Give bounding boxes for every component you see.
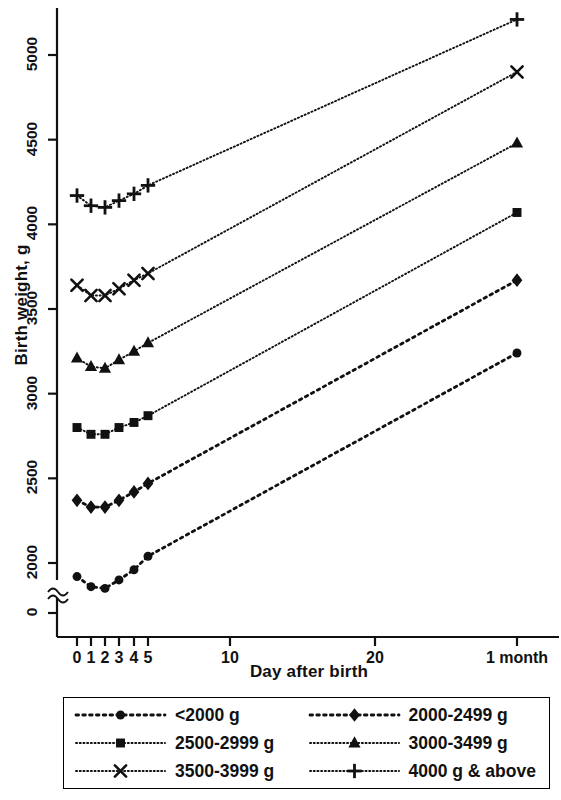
plot-area: Birth weight, g Day after birth 02000250…: [0, 0, 561, 690]
legend-label: 2500-2999 g: [175, 733, 274, 754]
data-point-circle: [130, 565, 139, 574]
data-point-x: [142, 268, 153, 279]
data-point-diamond: [129, 485, 140, 499]
data-point-plus: [70, 188, 84, 202]
data-point-plus: [112, 193, 126, 207]
y-axis-tick-label: 3500: [23, 273, 41, 343]
data-point-triangle: [85, 360, 97, 371]
x-axis-tick-label: 5: [144, 649, 153, 667]
data-point-circle: [73, 572, 82, 581]
data-point-circle: [513, 349, 522, 358]
data-point-circle: [116, 711, 125, 720]
axis-break-symbol: [48, 589, 68, 603]
series-line: [77, 143, 517, 368]
legend-label: 3500-3999 g: [175, 761, 274, 782]
data-point-x: [113, 283, 124, 294]
data-point-plus: [98, 200, 112, 214]
series-line: [77, 72, 517, 296]
data-point-square: [144, 411, 153, 420]
x-axis-tick-label: 1 month: [486, 649, 548, 667]
data-point-diamond: [349, 708, 360, 722]
data-point-x: [128, 275, 139, 286]
legend-label: 3000-3499 g: [409, 733, 508, 754]
data-point-diamond: [114, 493, 125, 507]
series-diamond: [72, 273, 523, 514]
data-point-square: [513, 208, 522, 217]
data-point-diamond: [86, 500, 97, 514]
data-point-triangle: [128, 345, 140, 356]
legend-grid: <2000 g2000-2499 g2500-2999 g3000-3499 g…: [64, 698, 549, 788]
series-plus: [70, 12, 524, 214]
legend-sample-triangle-icon: [308, 732, 401, 754]
chart-canvas: [0, 0, 561, 690]
legend-label: <2000 g: [175, 705, 240, 726]
legend-item-x[interactable]: 3500-3999 g: [74, 760, 308, 782]
legend-sample-x-icon: [74, 760, 167, 782]
data-point-circle: [115, 575, 124, 584]
legend-sample-diamond-icon: [308, 704, 401, 726]
data-point-square: [87, 430, 96, 439]
data-point-square: [116, 739, 125, 748]
legend-item-triangle[interactable]: 3000-3499 g: [308, 732, 542, 754]
data-point-plus: [127, 187, 141, 201]
data-point-circle: [144, 552, 153, 561]
x-axis-tick-label: 0: [73, 649, 82, 667]
y-axis-tick-label: 4500: [23, 104, 41, 174]
x-axis-tick-label: 1: [87, 649, 96, 667]
data-point-square: [73, 423, 82, 432]
legend-sample-plus-icon: [308, 760, 401, 782]
data-point-diamond: [100, 500, 111, 514]
series-circle: [73, 349, 522, 593]
data-point-square: [115, 423, 124, 432]
y-axis-tick-label: 4000: [23, 188, 41, 258]
series-square: [73, 208, 522, 439]
data-point-circle: [101, 584, 110, 593]
data-point-square: [101, 430, 110, 439]
legend-item-plus[interactable]: 4000 g & above: [308, 760, 542, 782]
data-point-diamond: [512, 273, 523, 287]
data-point-triangle: [71, 351, 83, 362]
legend-item-diamond[interactable]: 2000-2499 g: [308, 704, 542, 726]
x-axis-tick-label: 3: [115, 649, 124, 667]
data-point-triangle: [113, 353, 125, 364]
legend-sample-circle-icon: [74, 704, 167, 726]
legend-item-square[interactable]: 2500-2999 g: [74, 732, 308, 754]
legend-item-circle[interactable]: <2000 g: [74, 704, 308, 726]
y-axis-tick-label: 2000: [23, 527, 41, 597]
data-point-diamond: [72, 493, 83, 507]
data-point-triangle: [348, 736, 360, 747]
series-line: [77, 280, 517, 507]
series-line: [77, 353, 517, 588]
data-point-x: [71, 280, 82, 291]
x-axis-tick-label: 2: [101, 649, 110, 667]
x-axis-tick-label: 4: [130, 649, 139, 667]
data-point-triangle: [511, 136, 523, 147]
data-point-plus: [347, 764, 361, 778]
legend-sample-square-icon: [74, 732, 167, 754]
data-point-circle: [87, 582, 96, 591]
y-axis-tick-label: 2500: [23, 442, 41, 512]
y-axis-tick-label: 5000: [23, 19, 41, 89]
data-point-plus: [141, 178, 155, 192]
data-point-x: [511, 66, 522, 77]
legend-label: 2000-2499 g: [409, 705, 508, 726]
series-triangle: [71, 136, 523, 372]
series-x: [71, 66, 522, 301]
data-point-plus: [510, 12, 524, 26]
series-line: [77, 213, 517, 435]
x-axis-tick-label: 10: [221, 649, 239, 667]
data-point-triangle: [142, 336, 154, 347]
data-point-square: [130, 418, 139, 427]
x-axis-tick-label: 20: [366, 649, 384, 667]
legend: <2000 g2000-2499 g2500-2999 g3000-3499 g…: [63, 697, 550, 789]
data-point-plus: [84, 199, 98, 213]
y-axis-tick-label: 3000: [23, 358, 41, 428]
legend-label: 4000 g & above: [409, 761, 536, 782]
chart-page: Birth weight, g Day after birth 02000250…: [0, 0, 561, 800]
data-point-diamond: [143, 477, 154, 491]
